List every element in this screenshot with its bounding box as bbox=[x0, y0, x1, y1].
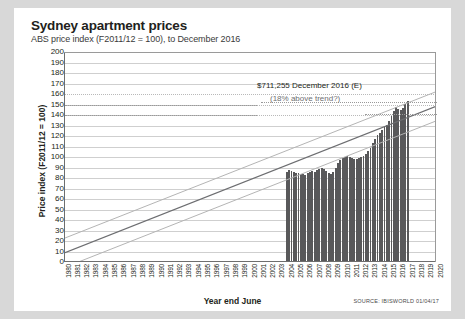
annotation-leader-line bbox=[365, 114, 437, 115]
trend-center bbox=[65, 106, 436, 252]
y-tick-label: 100 bbox=[18, 153, 64, 161]
x-tick-label: 2020 bbox=[437, 264, 444, 278]
x-tick-label: 2011 bbox=[353, 264, 360, 277]
x-tick-label: 2006 bbox=[306, 264, 313, 278]
y-tick-label: 50 bbox=[18, 206, 64, 214]
y-tick-label: 130 bbox=[18, 122, 64, 130]
x-tick-label: 2018 bbox=[418, 264, 425, 278]
x-tick-label: 1999 bbox=[241, 264, 248, 278]
y-tick-label: 160 bbox=[18, 90, 64, 98]
x-tick-label: 2015 bbox=[390, 264, 397, 278]
x-tick-label: 1992 bbox=[176, 264, 183, 278]
x-axis-ticks: 1980198119821983198419851986198719881989… bbox=[64, 264, 436, 294]
source-note: SOURCE: IBISWORLD 01/04/17 bbox=[353, 298, 439, 304]
y-tick-label: 10 bbox=[18, 248, 64, 256]
x-tick-label: 1987 bbox=[130, 264, 137, 278]
chart-card: Sydney apartment prices ABS price index … bbox=[14, 8, 451, 311]
annotation-note: (18% above trend?) bbox=[270, 94, 340, 103]
y-axis-ticks: 0102030405060708090100110120130140150160… bbox=[14, 52, 64, 262]
x-tick-label: 2014 bbox=[381, 264, 388, 278]
x-tick-label: 2012 bbox=[362, 264, 369, 278]
x-tick-label: 1982 bbox=[83, 264, 90, 278]
y-tick-label: 60 bbox=[18, 195, 64, 203]
x-tick-label: 1994 bbox=[195, 264, 202, 278]
y-tick-label: 90 bbox=[18, 164, 64, 172]
y-tick-label: 200 bbox=[18, 48, 64, 56]
x-tick-label: 2001 bbox=[260, 264, 267, 278]
chart-subtitle: ABS price index (F2011/12 = 100), to Dec… bbox=[31, 34, 240, 44]
annotation-leader-line bbox=[65, 115, 257, 116]
y-tick-label: 120 bbox=[18, 132, 64, 140]
x-tick-label: 2008 bbox=[325, 264, 332, 278]
y-tick-label: 80 bbox=[18, 174, 64, 182]
x-tick-label: 1993 bbox=[185, 264, 192, 278]
x-tick-label: 2002 bbox=[269, 264, 276, 278]
annotation-leader-line bbox=[65, 105, 257, 106]
y-tick-label: 20 bbox=[18, 237, 64, 245]
x-tick-label: 1997 bbox=[223, 264, 230, 278]
x-tick-label: 2003 bbox=[278, 264, 285, 278]
x-tick-label: 1995 bbox=[204, 264, 211, 278]
y-tick-label: 140 bbox=[18, 111, 64, 119]
y-tick-label: 0 bbox=[18, 258, 64, 266]
x-tick-label: 1998 bbox=[232, 264, 239, 278]
x-tick-label: 1983 bbox=[92, 264, 99, 278]
x-tick-label: 1996 bbox=[213, 264, 220, 278]
x-tick-label: 1988 bbox=[139, 264, 146, 278]
annotation-value: $711,255 December 2016 (E) bbox=[257, 81, 362, 90]
y-tick-label: 40 bbox=[18, 216, 64, 224]
x-tick-label: 1991 bbox=[167, 264, 174, 278]
x-tick-label: 1989 bbox=[148, 264, 155, 278]
trend-lower bbox=[65, 121, 436, 261]
x-tick-label: 2005 bbox=[297, 264, 304, 278]
x-tick-label: 1980 bbox=[65, 264, 72, 278]
x-tick-label: 1984 bbox=[102, 264, 109, 278]
x-tick-label: 1985 bbox=[111, 264, 118, 278]
x-tick-label: 2009 bbox=[334, 264, 341, 278]
y-tick-label: 110 bbox=[18, 143, 64, 151]
y-tick-label: 30 bbox=[18, 227, 64, 235]
x-tick-label: 2007 bbox=[316, 264, 323, 278]
trend-lines bbox=[65, 52, 436, 261]
y-tick-label: 170 bbox=[18, 80, 64, 88]
x-tick-label: 2013 bbox=[371, 264, 378, 278]
x-tick-label: 1990 bbox=[158, 264, 165, 278]
x-tick-label: 1981 bbox=[74, 264, 81, 278]
y-tick-label: 190 bbox=[18, 59, 64, 67]
x-tick-label: 2004 bbox=[288, 264, 295, 278]
plot-area bbox=[64, 52, 436, 262]
y-tick-label: 180 bbox=[18, 69, 64, 77]
y-tick-label: 150 bbox=[18, 101, 64, 109]
x-tick-label: 1986 bbox=[120, 264, 127, 278]
x-tick-label: 2016 bbox=[399, 264, 406, 278]
x-tick-label: 2017 bbox=[409, 264, 416, 278]
x-tick-label: 2010 bbox=[344, 264, 351, 278]
x-tick-label: 2000 bbox=[251, 264, 258, 278]
y-tick-label: 70 bbox=[18, 185, 64, 193]
x-tick-label: 2019 bbox=[427, 264, 434, 278]
page-title: Sydney apartment prices bbox=[31, 18, 187, 33]
